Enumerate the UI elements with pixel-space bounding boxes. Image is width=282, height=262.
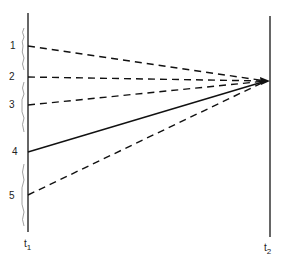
ray-3 bbox=[28, 81, 266, 105]
ray-5 bbox=[28, 81, 266, 195]
ray-4 bbox=[28, 81, 266, 152]
point-label-1: 1 bbox=[10, 40, 16, 51]
ray-1 bbox=[28, 46, 266, 81]
brace-5 bbox=[22, 164, 24, 226]
axis-label-t2: t2 bbox=[264, 242, 271, 256]
point-label-5: 5 bbox=[9, 190, 15, 201]
arrowhead-icon bbox=[260, 77, 270, 85]
brace-1 bbox=[22, 28, 24, 70]
point-label-2: 2 bbox=[9, 71, 15, 82]
point-label-3: 3 bbox=[9, 99, 15, 110]
diagram-canvas bbox=[0, 0, 282, 262]
axis-label-t1: t1 bbox=[24, 238, 31, 252]
point-label-4: 4 bbox=[12, 146, 18, 157]
brace-3 bbox=[22, 82, 24, 132]
ray-2 bbox=[28, 77, 266, 81]
